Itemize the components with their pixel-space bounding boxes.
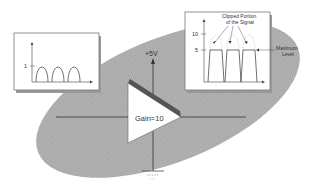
output-y-tick-5: 5 <box>195 47 198 53</box>
clipped-annotation-line2: of the Signal <box>226 19 254 25</box>
input-graph: 1 <box>14 33 101 93</box>
input-y-tick-label: 1 <box>24 63 27 69</box>
ground-icon <box>142 171 164 179</box>
supply-label: +5V <box>145 50 158 57</box>
gain-label: Gain=10 <box>135 114 164 123</box>
output-y-tick-10: 10 <box>192 31 198 37</box>
output-graph: 10 5 Clipped Portion of the Signal <box>185 12 272 93</box>
amplifier-clipping-diagram: +5V Gain=10 1 10 5 C <box>0 0 318 196</box>
input-terminal <box>56 116 58 118</box>
max-level-label-line2: Level <box>282 51 294 57</box>
background-ellipse <box>15 0 318 196</box>
